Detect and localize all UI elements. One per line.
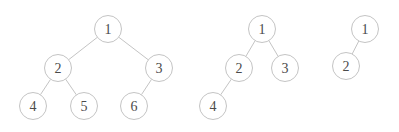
tree-node-2: 2 [333,53,360,80]
tree-node-4: 4 [20,93,47,120]
tree-complete-4: 1234 [200,16,299,120]
node-label: 3 [282,61,289,76]
edge-3-6 [141,79,151,94]
edge-1-2 [69,37,98,59]
node-label: 4 [30,99,37,114]
tree-node-1: 1 [352,16,379,43]
node-label: 1 [362,22,369,37]
tree-node-6: 6 [121,93,148,120]
node-label: 1 [105,22,112,37]
node-label: 2 [55,61,62,76]
edge-2-4 [221,79,232,95]
node-label: 2 [236,61,243,76]
tree-node-1: 1 [249,16,276,43]
tree-complete-6: 123456 [20,16,173,120]
tree-node-5: 5 [71,93,98,120]
edge-2-4 [40,79,50,94]
tree-node-1: 1 [95,16,122,43]
tree-node-3: 3 [272,55,299,82]
edge-1-3 [119,37,149,60]
edge-1-2 [246,41,255,57]
node-label: 6 [131,99,138,114]
node-label: 2 [343,59,350,74]
tree-node-3: 3 [146,55,173,82]
node-label: 3 [156,61,163,76]
tree-complete-2: 12 [333,16,379,80]
tree-node-2: 2 [45,55,72,82]
node-label: 5 [81,99,88,114]
tree-node-4: 4 [200,93,227,120]
edge-1-2 [352,41,359,54]
edge-1-3 [269,41,278,57]
tree-node-2: 2 [226,55,253,82]
node-label: 4 [210,99,217,114]
binary-trees-diagram: 123456123412 [0,0,399,132]
edge-2-5 [66,79,77,95]
node-label: 1 [259,22,266,37]
